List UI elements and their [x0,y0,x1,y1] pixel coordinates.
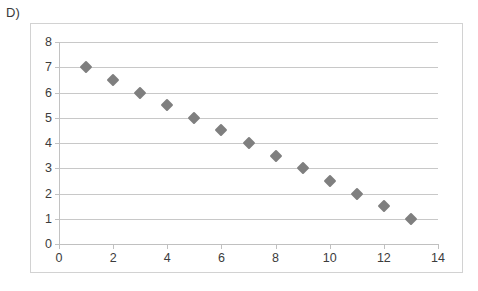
data-point [377,200,390,213]
x-tick-mark-8 [276,244,277,249]
data-point [107,74,120,87]
chart-frame: 012345678 02468101214 [30,23,463,273]
plot-area: 012345678 02468101214 [31,24,462,272]
y-tick-label-1: 1 [45,213,52,226]
data-point [296,162,309,175]
y-tick-label-0: 0 [45,238,52,251]
x-tick-mark-2 [113,244,114,249]
data-point [269,149,282,162]
y-tick-label-5: 5 [45,112,52,125]
y-tick-label-2: 2 [45,187,52,200]
x-tick-label-2: 2 [110,252,117,265]
y-tick-mark-3 [55,168,59,169]
y-tick-mark-4 [55,143,59,144]
gridline-y-5 [59,118,438,119]
x-tick-label-12: 12 [377,252,391,265]
data-point [323,175,336,188]
y-tick-mark-8 [55,42,59,43]
x-tick-mark-6 [221,244,222,249]
y-tick-mark-7 [55,67,59,68]
x-tick-mark-14 [438,244,439,249]
x-tick-mark-4 [167,244,168,249]
data-point [161,99,174,112]
x-tick-mark-0 [59,244,60,249]
data-point [215,124,228,137]
data-point [134,86,147,99]
y-tick-mark-2 [55,194,59,195]
y-tick-label-8: 8 [45,36,52,49]
x-tick-label-10: 10 [323,252,337,265]
x-tick-mark-12 [384,244,385,249]
x-tick-mark-10 [330,244,331,249]
data-point [188,111,201,124]
x-tick-label-6: 6 [218,252,225,265]
x-tick-label-8: 8 [272,252,279,265]
gridline-y-3 [59,168,438,169]
data-point [242,137,255,150]
y-tick-label-3: 3 [45,162,52,175]
y-tick-label-4: 4 [45,137,52,150]
y-tick-label-7: 7 [45,61,52,74]
y-tick-mark-6 [55,93,59,94]
x-axis-line [59,244,438,245]
data-point [80,61,93,74]
gridline-y-1 [59,219,438,220]
y-tick-mark-1 [55,219,59,220]
x-tick-label-14: 14 [431,252,445,265]
gridline-y-2 [59,194,438,195]
gridline-y-8 [59,42,438,43]
panel-label: D) [6,5,20,21]
x-tick-label-0: 0 [56,252,63,265]
y-tick-label-6: 6 [45,86,52,99]
x-tick-label-4: 4 [164,252,171,265]
gridline-y-6 [59,93,438,94]
gridline-y-7 [59,67,438,68]
y-axis-spine [59,42,60,244]
data-point [350,187,363,200]
data-point [405,212,418,225]
y-tick-mark-5 [55,118,59,119]
